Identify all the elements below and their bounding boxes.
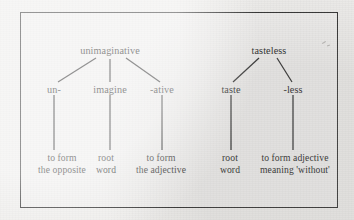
morpheme-taste: taste	[221, 84, 240, 95]
description-imagine: root word	[96, 152, 116, 175]
description-less: to form adjective meaning 'without'	[260, 152, 330, 175]
description-un-line2: the opposite	[38, 164, 86, 176]
description-taste-line2: word	[220, 164, 240, 176]
description-un-line1: to form	[38, 152, 86, 164]
description-un: to form the opposite	[38, 152, 86, 175]
morpheme-ative: -ative	[150, 84, 174, 95]
description-taste-line1: root	[220, 152, 240, 164]
description-taste: root word	[220, 152, 240, 175]
description-less-line1: to form adjective	[260, 152, 330, 164]
edge-tasteless-to-less	[277, 58, 292, 82]
tree-root-tasteless: tasteless	[252, 45, 287, 56]
edge-tasteless-to-taste	[233, 58, 259, 82]
figure-page: unimaginative un- imagine -ative to form…	[0, 0, 354, 220]
tree-connector-lines	[0, 0, 354, 220]
description-ative-line1: to form	[136, 152, 186, 164]
description-less-line2: meaning 'without'	[260, 164, 330, 176]
morpheme-un: un-	[47, 84, 61, 95]
description-ative: to form the adjective	[136, 152, 186, 175]
tree-root-unimaginative: unimaginative	[80, 45, 140, 56]
edge-unimaginative-to-ative	[126, 58, 160, 82]
edge-unimaginative-to-un	[58, 58, 96, 82]
description-imagine-line2: word	[96, 164, 116, 176]
morpheme-imagine: imagine	[93, 84, 127, 95]
morpheme-less: -less	[283, 84, 302, 95]
description-ative-line2: the adjective	[136, 164, 186, 176]
description-imagine-line1: root	[96, 152, 116, 164]
